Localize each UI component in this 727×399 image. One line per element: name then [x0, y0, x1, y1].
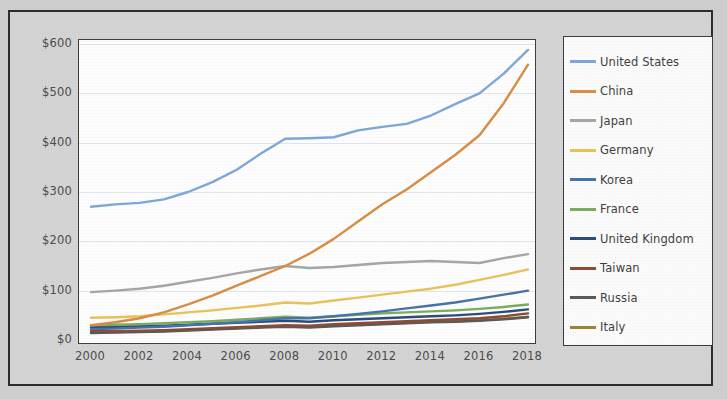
legend-item-label: China	[600, 84, 633, 98]
legend-item-label: Italy	[600, 320, 625, 334]
legend-item-taiwan[interactable]: Taiwan	[570, 254, 712, 284]
legend-color-swatch	[570, 90, 596, 93]
x-axis-tick-label: 2016	[463, 349, 493, 363]
legend-item-label: Taiwan	[600, 261, 640, 275]
legend-item-germany[interactable]: Germany	[570, 136, 712, 166]
x-axis-tick-label: 2000	[75, 349, 105, 363]
x-axis-tick-label: 2018	[512, 349, 542, 363]
legend-item-label: United States	[600, 55, 679, 69]
y-axis-tick-label: $600	[2, 36, 72, 50]
legend-color-swatch	[570, 267, 596, 270]
y-axis-tick-label: $200	[2, 233, 72, 247]
legend-item-japan[interactable]: Japan	[570, 106, 712, 136]
legend-color-swatch	[570, 326, 596, 329]
legend-color-swatch	[570, 178, 596, 181]
legend-item-label: Japan	[600, 114, 633, 128]
x-axis-tick-label: 2002	[124, 349, 154, 363]
x-axis-tick-label: 2006	[221, 349, 251, 363]
legend-item-label: United Kingdom	[600, 232, 694, 246]
legend-item-label: France	[600, 202, 639, 216]
legend-item-label: Russia	[600, 291, 638, 305]
legend-color-swatch	[570, 296, 596, 299]
x-axis-tick-label: 2014	[415, 349, 445, 363]
legend-item-united-kingdom[interactable]: United Kingdom	[570, 224, 712, 254]
x-axis-tick-label: 2012	[366, 349, 396, 363]
legend-item-label: Germany	[600, 143, 654, 157]
legend-item-france[interactable]: France	[570, 195, 712, 225]
series-line-japan	[91, 254, 528, 292]
legend-item-italy[interactable]: Italy	[570, 313, 712, 343]
series-lines	[79, 40, 534, 342]
y-axis-tick-label: $500	[2, 85, 72, 99]
y-axis-tick-label: $300	[2, 184, 72, 198]
y-axis-tick-label: $100	[2, 283, 72, 297]
legend-item-label: Korea	[600, 173, 633, 187]
y-axis-tick-label: $400	[2, 135, 72, 149]
y-axis: $600$500$400$300$200$100$0	[0, 0, 72, 399]
x-axis-tick-label: 2008	[269, 349, 299, 363]
legend-item-korea[interactable]: Korea	[570, 165, 712, 195]
series-line-united-states	[91, 50, 528, 207]
legend-color-swatch	[570, 60, 596, 63]
legend-color-swatch	[570, 149, 596, 152]
plot-area	[78, 39, 536, 344]
legend-item-russia[interactable]: Russia	[570, 283, 712, 313]
y-axis-tick-label: $0	[2, 332, 72, 346]
legend-color-swatch	[570, 237, 596, 240]
legend-item-united-states[interactable]: United States	[570, 47, 712, 77]
x-axis-tick-label: 2010	[318, 349, 348, 363]
chart-legend: United StatesChinaJapanGermanyKoreaFranc…	[563, 36, 713, 346]
legend-item-china[interactable]: China	[570, 77, 712, 107]
legend-color-swatch	[570, 119, 596, 122]
x-axis: 2000200220042006200820102012201420162018	[78, 349, 536, 371]
chart-card: $600$500$400$300$200$100$0 2000200220042…	[0, 0, 727, 399]
x-axis-tick-label: 2004	[172, 349, 202, 363]
legend-color-swatch	[570, 208, 596, 211]
